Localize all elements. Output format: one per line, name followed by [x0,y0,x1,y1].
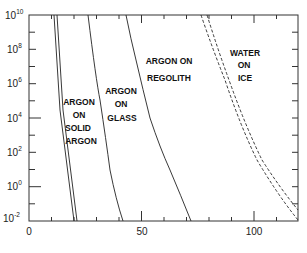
svg-text:ON: ON [238,60,251,70]
y-ticks-left [29,32,41,204]
x-ticks-top [52,15,277,23]
svg-text:100: 100 [246,226,263,237]
region-label-argon-on-glass: ARGON ON GLASS [105,86,137,123]
y-tick-labels: 1010 108 106 104 102 100 10-2 [3,8,24,224]
svg-text:WATER: WATER [230,48,260,58]
curve-water-on-ice-2 [207,15,298,210]
svg-text:ARGON: ARGON [63,97,95,107]
svg-text:106: 106 [7,76,22,89]
svg-text:1010: 1010 [5,8,24,21]
curve-water-on-ice-1 [201,15,298,220]
svg-text:50: 50 [136,226,148,237]
y-ticks-right [292,32,298,204]
svg-text:100: 100 [7,179,22,192]
x-tick-labels: 0 50 100 [26,226,263,237]
svg-text:ICE: ICE [238,73,253,83]
svg-text:108: 108 [7,42,22,55]
svg-text:REGOLITH: REGOLITH [147,73,191,83]
x-ticks-bottom [52,211,277,221]
svg-text:0: 0 [26,226,32,237]
chart: 1010 108 106 104 102 100 10-2 0 50 100 A… [0,0,307,253]
svg-text:ARGON: ARGON [105,86,137,96]
svg-text:102: 102 [7,145,22,158]
svg-text:SOLID: SOLID [65,123,91,133]
svg-text:ON: ON [73,110,86,120]
region-label-argon-on-solid-argon: ARGON ON SOLID ARGON [63,97,97,146]
region-label-water-on-ice: WATER ON ICE [230,48,260,83]
curves [54,15,298,221]
plot-frame [29,15,298,221]
svg-text:ARGON: ARGON [65,136,97,146]
svg-text:ON: ON [115,99,128,109]
svg-text:104: 104 [7,111,22,124]
svg-text:GLASS: GLASS [107,113,137,123]
svg-text:10-2: 10-2 [3,211,20,224]
region-label-argon-on-regolith: ARGON ON REGOLITH [146,56,193,83]
svg-text:ARGON ON: ARGON ON [146,56,193,66]
